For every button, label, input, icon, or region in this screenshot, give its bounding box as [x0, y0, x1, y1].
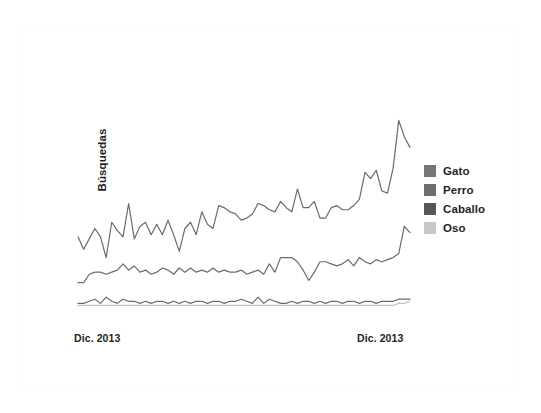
series-line-gato [78, 120, 410, 257]
chart-legend: Gato Perro Caballo Oso [424, 161, 485, 237]
legend-swatch-icon [424, 203, 436, 215]
legend-item-oso[interactable]: Oso [424, 218, 485, 237]
series-line-caballo [78, 297, 410, 303]
legend-item-perro[interactable]: Perro [424, 180, 485, 199]
legend-item-label: Oso [443, 222, 466, 234]
legend-swatch-icon [424, 165, 436, 177]
legend-item-caballo[interactable]: Caballo [424, 199, 485, 218]
legend-item-label: Caballo [443, 203, 485, 215]
x-axis-tick-label-end: Dic. 2013 [357, 332, 403, 344]
legend-item-label: Gato [443, 165, 470, 177]
legend-swatch-icon [424, 222, 436, 234]
legend-item-label: Perro [443, 184, 474, 196]
series-line-perro [78, 226, 410, 282]
series-layer [78, 120, 410, 305]
chart-figure: Búsquedas Dic. 2013 Dic. 2013 Gato Perro… [0, 0, 541, 413]
legend-item-gato[interactable]: Gato [424, 161, 485, 180]
legend-swatch-icon [424, 184, 436, 196]
x-axis-tick-label-start: Dic. 2013 [74, 332, 120, 344]
y-axis-title: Búsquedas [94, 110, 110, 210]
